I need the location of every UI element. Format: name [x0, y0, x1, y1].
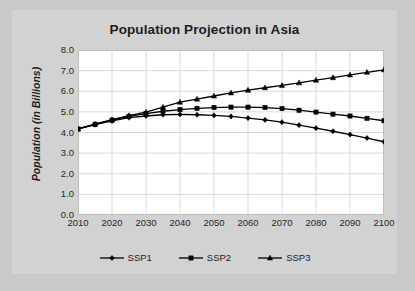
data-point-diamond [297, 122, 302, 127]
y-tick-label: 7.0 [44, 65, 74, 76]
y-tick-label: 8.0 [44, 44, 74, 55]
data-point-diamond [331, 129, 336, 134]
y-tick-label: 5.0 [44, 106, 74, 117]
data-point-square [212, 105, 216, 109]
legend-item-ssp3[interactable]: SSP3 [257, 252, 310, 263]
data-point-triangle [381, 67, 384, 72]
data-point-square [178, 108, 182, 112]
data-point-diamond [178, 112, 183, 117]
data-point-square [246, 105, 250, 109]
data-point-diamond [263, 117, 268, 122]
data-point-square [161, 109, 165, 113]
series-line [78, 70, 384, 129]
data-point-square [297, 108, 301, 112]
data-point-square [195, 106, 199, 110]
data-point-diamond [195, 112, 200, 117]
y-tick-label: 2.0 [44, 168, 74, 179]
plot-svg [78, 50, 384, 215]
legend-marker-square-icon [178, 253, 204, 263]
page-title: Population Projection in Asia [12, 22, 397, 37]
legend-marker-triangle-icon [257, 253, 283, 263]
legend-item-ssp1[interactable]: SSP1 [99, 252, 152, 263]
y-tick-label: 6.0 [44, 85, 74, 96]
data-point-diamond [212, 113, 217, 118]
legend-label: SSP1 [128, 252, 152, 263]
legend-label: SSP2 [207, 252, 231, 263]
legend-marker-diamond-icon [99, 253, 125, 263]
data-point-diamond [109, 255, 114, 260]
y-tick-label: 1.0 [44, 188, 74, 199]
y-tick-label: 3.0 [44, 147, 74, 158]
data-point-diamond [382, 139, 384, 144]
legend-item-ssp2[interactable]: SSP2 [178, 252, 231, 263]
data-point-diamond [246, 115, 251, 120]
x-axis-tick-labels: 2010202020302040205020602070208020902100 [78, 217, 384, 233]
y-tick-label: 4.0 [44, 127, 74, 138]
data-point-diamond [280, 120, 285, 125]
chart-legend: SSP1SSP2SSP3 [12, 252, 397, 263]
legend-label: SSP3 [286, 252, 310, 263]
data-point-square [229, 105, 233, 109]
chart-panel: Population Projection in Asia Population… [12, 10, 397, 274]
data-point-square [263, 105, 267, 109]
data-point-diamond [314, 126, 319, 131]
data-point-diamond [365, 135, 370, 140]
series-ssp3 [78, 67, 384, 131]
plot-area [78, 50, 384, 215]
data-point-square [314, 110, 318, 114]
data-point-square [382, 119, 384, 123]
data-point-square [348, 114, 352, 118]
x-tick-label: 2100 [364, 217, 404, 228]
figure-root: Population Projection in Asia Population… [0, 0, 415, 291]
data-point-diamond [229, 114, 234, 119]
data-point-square [189, 255, 193, 259]
data-point-square [331, 112, 335, 116]
y-axis-tick-labels: 0.01.02.03.04.05.06.07.08.0 [40, 50, 74, 215]
data-point-square [280, 106, 284, 110]
data-point-square [365, 116, 369, 120]
